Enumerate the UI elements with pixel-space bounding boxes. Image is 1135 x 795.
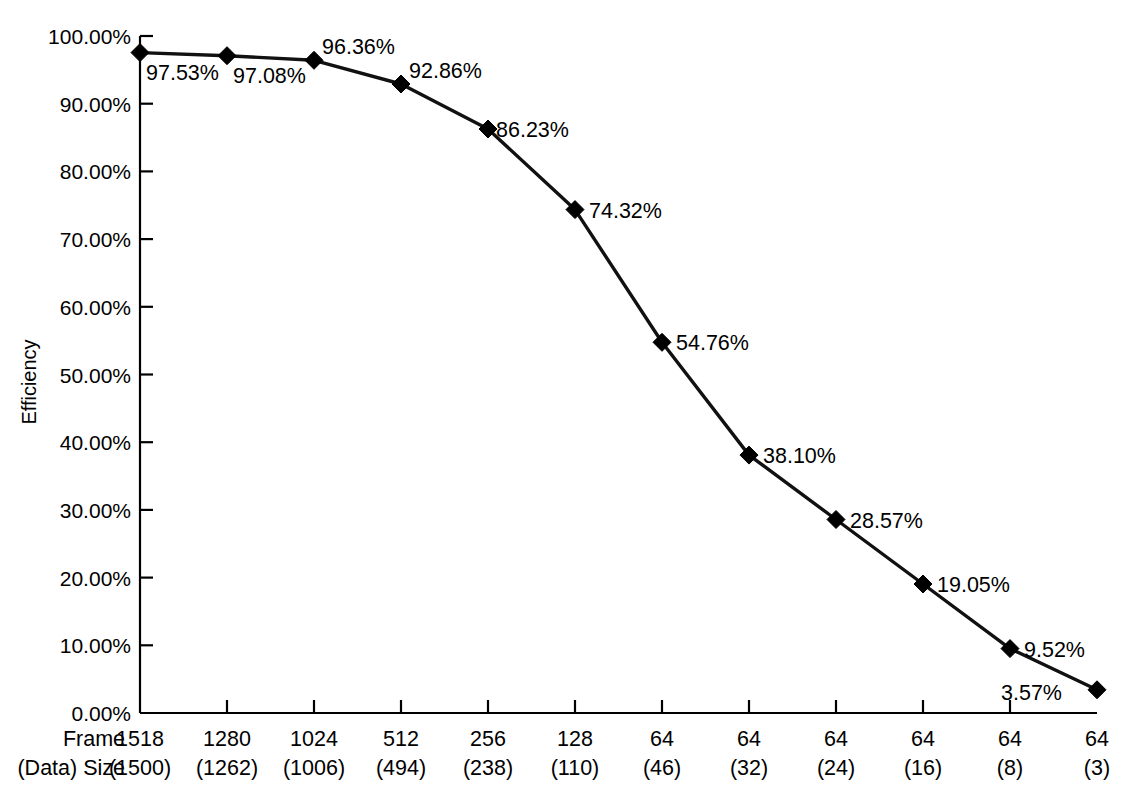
x-tick-label: 64 bbox=[1085, 727, 1109, 751]
y-tick-label: 0.00% bbox=[71, 702, 131, 725]
data-point-labels: 97.53% 97.08% 96.36% 92.86% 86.23% 74.32… bbox=[146, 35, 1085, 705]
data-point-label: 28.57% bbox=[850, 509, 923, 533]
x-tick-sublabel: (32) bbox=[730, 756, 768, 780]
data-point-label: 97.08% bbox=[233, 64, 306, 88]
x-tick-label: 64 bbox=[650, 727, 674, 751]
x-tick-sublabel: (1500) bbox=[109, 756, 171, 780]
x-axis-sublabels: (1500) (1262) (1006) (494) (238) (110) (… bbox=[109, 756, 1110, 780]
y-tick-label: 80.00% bbox=[60, 160, 131, 183]
data-point-marker bbox=[305, 51, 323, 69]
y-tick-label: 50.00% bbox=[60, 364, 131, 387]
x-tick-sublabel: (1262) bbox=[196, 756, 258, 780]
x-tick-label: 512 bbox=[383, 727, 419, 751]
y-tick-label: 100.00% bbox=[48, 25, 131, 48]
data-point-label: 96.36% bbox=[322, 35, 395, 59]
data-point-label: 74.32% bbox=[589, 199, 662, 223]
x-tick-sublabel: (3) bbox=[1084, 756, 1110, 780]
data-point-label: 92.86% bbox=[409, 59, 482, 83]
efficiency-line-chart: Efficiency 100.00% 90.00% 80.00% 70.00% … bbox=[0, 0, 1135, 795]
y-tick-label: 20.00% bbox=[60, 567, 131, 590]
x-tick-label: 64 bbox=[737, 727, 761, 751]
y-axis-title: Efficiency bbox=[18, 339, 40, 424]
data-point-marker bbox=[131, 44, 149, 62]
chart-figure: Efficiency 100.00% 90.00% 80.00% 70.00% … bbox=[0, 0, 1135, 795]
x-tick-sublabel: (46) bbox=[643, 756, 681, 780]
x-tick-label: 64 bbox=[998, 727, 1022, 751]
data-point-label: 86.23% bbox=[496, 118, 569, 142]
x-tick-label: 1024 bbox=[290, 727, 338, 751]
x-tick-sublabel: (24) bbox=[817, 756, 855, 780]
x-tick-label: 256 bbox=[470, 727, 506, 751]
x-tick-label: 64 bbox=[911, 727, 935, 751]
data-point-label: 3.57% bbox=[1001, 681, 1062, 705]
y-tick-label: 90.00% bbox=[60, 93, 131, 116]
data-point-marker bbox=[392, 75, 410, 93]
x-tick-sublabel: (16) bbox=[904, 756, 942, 780]
data-point-label: 38.10% bbox=[763, 444, 836, 468]
x-tick-sublabel: (1006) bbox=[283, 756, 345, 780]
y-tick-label: 10.00% bbox=[60, 634, 131, 657]
x-tick-sublabel: (238) bbox=[463, 756, 513, 780]
data-point-marker bbox=[1088, 681, 1106, 699]
y-axis-tick-labels: 100.00% 90.00% 80.00% 70.00% 60.00% 50.0… bbox=[48, 25, 131, 725]
x-tick-label: 1518 bbox=[116, 727, 164, 751]
data-point-label: 9.52% bbox=[1024, 638, 1085, 662]
data-point-label: 97.53% bbox=[146, 61, 219, 85]
data-point-label: 19.05% bbox=[937, 573, 1010, 597]
x-tick-sublabel: (8) bbox=[997, 756, 1023, 780]
x-tick-label: 64 bbox=[824, 727, 848, 751]
y-tick-label: 40.00% bbox=[60, 431, 131, 454]
x-tick-sublabel: (110) bbox=[551, 756, 600, 780]
y-axis-ticks bbox=[140, 36, 153, 645]
x-tick-label: 1280 bbox=[203, 727, 251, 751]
x-tick-label: 128 bbox=[557, 727, 593, 751]
x-axis-tick-labels: 1518 1280 1024 512 256 128 64 64 64 64 6… bbox=[116, 727, 1109, 751]
y-tick-label: 30.00% bbox=[60, 499, 131, 522]
y-tick-label: 60.00% bbox=[60, 296, 131, 319]
y-tick-label: 70.00% bbox=[60, 228, 131, 251]
data-point-markers bbox=[131, 44, 1106, 699]
x-tick-sublabel: (494) bbox=[376, 756, 426, 780]
data-point-marker bbox=[218, 47, 236, 65]
data-point-label: 54.76% bbox=[676, 331, 749, 355]
x-axis-ticks bbox=[227, 700, 1010, 713]
